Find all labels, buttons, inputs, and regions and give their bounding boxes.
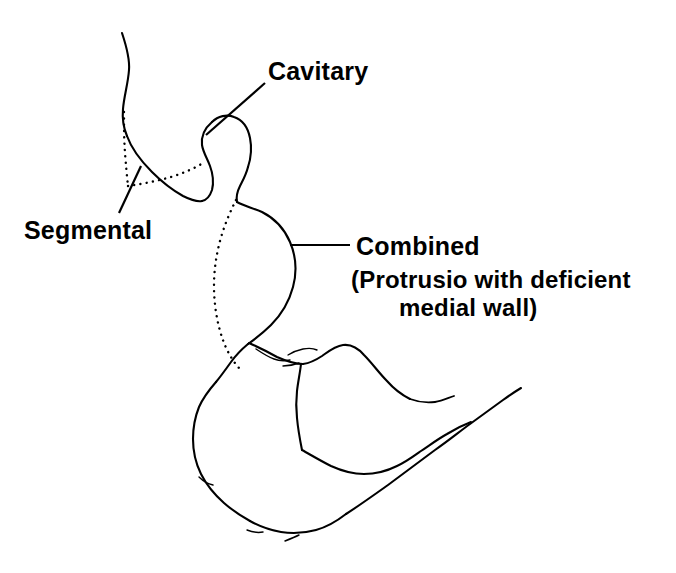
roof-junction-detail-path [288,348,317,355]
segmental-defect-diagonal-dotted-path [128,163,203,186]
acetabular-floor-septum-path [296,364,302,450]
combined-sublabel-line2: medial wall) [399,294,537,321]
diagram-canvas: Cavitary Segmental Combined (Protrusio w… [0,0,676,573]
septum-inner-hook-path [283,363,299,366]
protrusio-bulge-path [237,202,295,344]
cavitary-leader-line [206,83,265,135]
combined-sublabel-line1: (Protrusio with deficient [351,266,631,293]
obturator-inner-curve-path [302,422,471,474]
ischium-lateral-border-path [193,382,250,521]
iliac-to-acetabulum-path [127,136,202,201]
ischial-superior-border-path [249,343,303,364]
combined-label: Combined [356,232,480,260]
lateral-wing-tip-path [410,396,454,402]
ischial-tuberosity-path [250,514,346,533]
segmental-label: Segmental [24,216,152,244]
iliac-superior-contour-path [122,33,129,136]
inferior-ramus-path [216,344,248,382]
notch-mark-lower-path [247,530,263,532]
lateral-wall-descending-path [237,167,248,202]
segmental-defect-vertical-dotted-path [124,112,128,186]
acetabular-deficiency-figure: Cavitary Segmental Combined (Protrusio w… [0,0,676,573]
posterior-column-path [303,345,410,399]
segmental-leader-line [119,166,141,213]
notch-mark-bottom-path [285,535,299,541]
inferior-posterior-border-path [346,388,521,514]
cavitary-label: Cavitary [268,57,368,85]
protrusio-medial-wall-dotted-path [214,200,240,369]
